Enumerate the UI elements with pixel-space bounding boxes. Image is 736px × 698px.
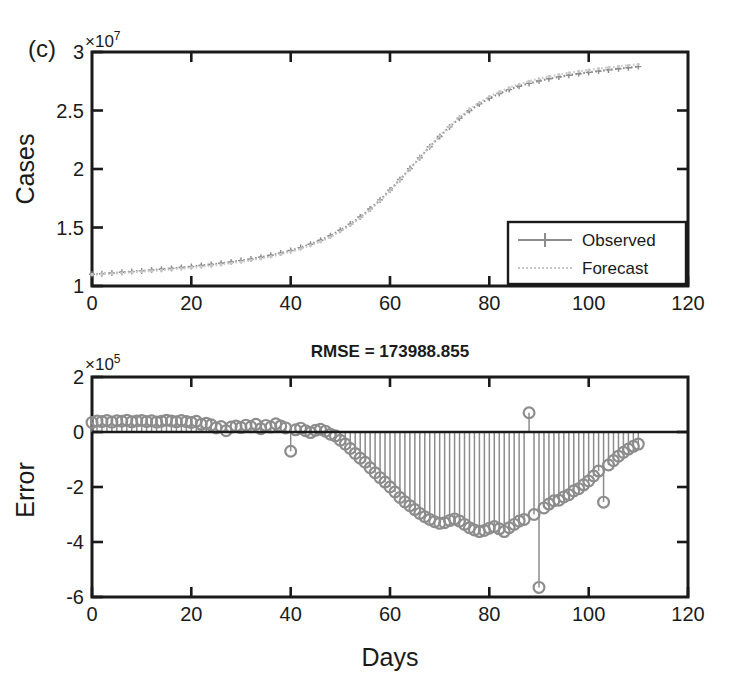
error-y-exponent: ×105 [85, 352, 121, 374]
error-stem-item [429, 432, 440, 527]
cases-x-tick-label-60: 60 [379, 292, 401, 314]
cases-y-tick-label-5: 3 [73, 41, 84, 63]
forecast-point [567, 71, 570, 74]
error-y-tick-label-m6: -6 [66, 586, 84, 608]
forecast-point [498, 90, 501, 93]
cases-x-tick-labels: 0 20 40 60 80 100 120 [86, 292, 704, 314]
cases-exponent-power: 7 [114, 29, 121, 43]
error-stem-item [524, 407, 535, 432]
cases-panel: (c) ×107 1 [11, 29, 705, 314]
forecast-point [607, 66, 610, 69]
rmse-title: RMSE = 173988.855 [311, 342, 469, 361]
cases-y-axis-title: Cases [11, 134, 39, 205]
error-stem-item [519, 432, 530, 525]
forecast-point [379, 199, 382, 202]
error-stem-item [395, 432, 406, 503]
error-stem-item [484, 432, 495, 534]
cases-x-tick-label-0: 0 [86, 292, 97, 314]
forecast-point [100, 273, 103, 276]
forecast-point [458, 116, 461, 119]
cases-x-tick-label-120: 120 [671, 292, 704, 314]
error-stem-item [375, 432, 386, 483]
cases-y-tick-label-4: 2.5 [56, 100, 84, 122]
forecast-point [240, 260, 243, 263]
forecast-point [220, 263, 223, 266]
forecast-point [349, 224, 352, 227]
forecast-point [617, 65, 620, 68]
forecast-point [597, 67, 600, 70]
error-x-tick-label-20: 20 [180, 603, 202, 625]
error-y-tick-label-0: 0 [73, 421, 84, 443]
error-stem-item [444, 432, 455, 526]
error-stem-item [479, 432, 490, 536]
forecast-point [91, 273, 94, 276]
cases-exponent-base: ×10 [85, 32, 114, 51]
cases-y-tick-label-2: 1.5 [56, 217, 84, 239]
error-stem-item [489, 432, 500, 532]
error-stem-item [474, 432, 485, 537]
forecast-point [190, 266, 193, 269]
error-y-tick-label-m4: -4 [66, 531, 84, 553]
forecast-point [309, 244, 312, 247]
cases-legend[interactable]: Observed Forecast [508, 222, 686, 284]
error-stem-item [439, 432, 450, 528]
forecast-point [557, 73, 560, 76]
error-x-tick-label-120: 120 [671, 603, 704, 625]
error-stem-item [370, 432, 381, 478]
forecast-point [359, 217, 362, 220]
cases-x-tick-label-80: 80 [478, 292, 500, 314]
forecast-point [319, 240, 322, 243]
forecast-point [299, 247, 302, 250]
cases-y-tick-label-1: 1 [73, 275, 84, 297]
error-stem-item [464, 432, 475, 533]
cases-x-tick-label-100: 100 [572, 292, 605, 314]
error-stem-layer [87, 407, 644, 592]
figure-svg: (c) ×107 1 [0, 0, 736, 698]
forecast-point [389, 189, 392, 192]
forecast-point [150, 269, 153, 272]
error-x-tick-label-100: 100 [572, 603, 605, 625]
error-y-axis-title: Error [11, 462, 39, 518]
svg-text:×107: ×107 [85, 29, 121, 51]
error-x-tick-label-40: 40 [280, 603, 302, 625]
error-stem-item [385, 432, 396, 492]
error-stem-item [499, 432, 510, 537]
error-stem-item [504, 432, 515, 533]
error-stem-item [514, 432, 525, 526]
forecast-point [418, 156, 421, 159]
forecast-point [130, 271, 133, 274]
error-stem-item [434, 432, 445, 529]
cases-x-tick-label-40: 40 [280, 292, 302, 314]
error-x-tick-label-60: 60 [379, 603, 401, 625]
error-stem-item [469, 432, 480, 535]
error-exponent-base: ×10 [85, 355, 114, 374]
forecast-point [289, 250, 292, 253]
forecast-point [160, 269, 163, 272]
forecast-point [518, 83, 521, 86]
forecast-point [210, 264, 213, 267]
error-panel: RMSE = 173988.855 ×105 2 0 [11, 342, 705, 671]
forecast-point [408, 167, 411, 170]
forecast-point [180, 267, 183, 270]
panel-label-c: (c) [28, 35, 56, 62]
cases-y-exponent: ×107 [85, 29, 121, 51]
forecast-point [488, 95, 491, 98]
forecast-point [269, 255, 272, 258]
error-stem-item [454, 432, 465, 526]
forecast-point [468, 108, 471, 111]
forecast-point [428, 145, 431, 148]
forecast-point [230, 262, 233, 265]
forecast-point [120, 271, 123, 274]
forecast-point [259, 257, 262, 260]
forecast-point [478, 101, 481, 104]
forecast-point [538, 77, 541, 80]
forecast-point [249, 259, 252, 262]
error-y-tick-labels: 2 0 -2 -4 -6 [66, 366, 84, 608]
error-exponent-power: 5 [114, 352, 121, 366]
forecast-point [528, 80, 531, 83]
forecast-point [587, 68, 590, 71]
forecast-point [279, 253, 282, 256]
forecast-point [339, 230, 342, 233]
cases-y-tick-labels: 1 1.5 2 2.5 3 [56, 41, 84, 297]
forecast-point [369, 208, 372, 211]
